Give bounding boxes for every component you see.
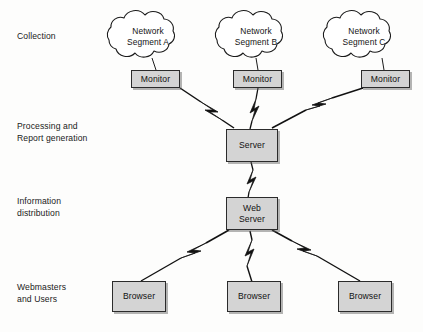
cloud-label-segment-a: Network Segment A <box>110 26 186 47</box>
connector-cloud-c-to-monitor-c <box>382 58 384 70</box>
connector-web-server-to-browser-1 <box>141 230 229 281</box>
node-server[interactable]: Server <box>226 129 278 162</box>
network-architecture-diagram: Collection Processing and Report generat… <box>0 0 423 332</box>
node-browser-3[interactable]: Browser <box>338 281 392 312</box>
connector-monitor-c-to-server <box>272 88 363 128</box>
node-browser-1[interactable]: Browser <box>112 281 166 312</box>
node-monitor-a[interactable]: Monitor <box>131 70 180 88</box>
tier-label-processing: Processing and Report generation <box>17 121 88 144</box>
connector-monitor-a-to-server <box>180 88 234 128</box>
connector-server-to-web-server <box>247 162 256 198</box>
connector-web-server-to-browser-3 <box>272 230 360 281</box>
connector-cloud-a-to-monitor-a <box>152 58 156 70</box>
node-monitor-c[interactable]: Monitor <box>361 70 410 88</box>
node-browser-2[interactable]: Browser <box>227 281 281 312</box>
connector-web-server-to-browser-2 <box>245 231 254 282</box>
node-monitor-b[interactable]: Monitor <box>233 70 282 88</box>
tier-label-distribution: Information distribution <box>17 196 61 219</box>
connector-monitor-b-to-server <box>250 88 259 129</box>
connector-cloud-b-to-monitor-b <box>256 58 258 70</box>
node-web-server[interactable]: Web Server <box>226 197 278 230</box>
tier-label-consumers: Webmasters and Users <box>17 282 66 305</box>
cloud-label-segment-b: Network Segment B <box>218 26 294 47</box>
cloud-label-segment-c: Network Segment C <box>326 26 402 47</box>
tier-label-collection: Collection <box>17 31 56 43</box>
